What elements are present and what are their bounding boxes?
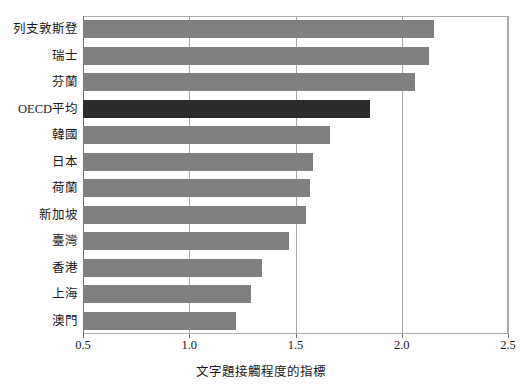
bar-row xyxy=(83,202,508,229)
x-axis-tick-label: 1.5 xyxy=(288,338,304,353)
bar xyxy=(83,100,370,118)
bar-row xyxy=(83,255,508,282)
category-label: 韓國 xyxy=(0,122,78,149)
category-label: 芬蘭 xyxy=(0,69,78,96)
category-label: 上海 xyxy=(0,281,78,308)
bar-row xyxy=(83,281,508,308)
bar-chart: 列支敦斯登 瑞士 芬蘭 OECD平均 韓國 日本 荷蘭 新加坡 臺灣 香港 上海… xyxy=(0,0,521,390)
bar xyxy=(83,259,262,277)
gridline xyxy=(508,16,509,334)
bar xyxy=(83,285,251,303)
bar-row xyxy=(83,69,508,96)
bar xyxy=(83,153,313,171)
bar xyxy=(83,73,415,91)
bar-series xyxy=(83,16,508,334)
category-label: 荷蘭 xyxy=(0,175,78,202)
bar-row xyxy=(83,228,508,255)
bar xyxy=(83,126,330,144)
category-label: 列支敦斯登 xyxy=(0,16,78,43)
category-label: 澳門 xyxy=(0,308,78,335)
bar xyxy=(83,232,289,250)
bar-row xyxy=(83,122,508,149)
bar xyxy=(83,312,236,330)
bar xyxy=(83,179,310,197)
category-label: 日本 xyxy=(0,149,78,176)
category-axis-labels: 列支敦斯登 瑞士 芬蘭 OECD平均 韓國 日本 荷蘭 新加坡 臺灣 香港 上海… xyxy=(0,16,78,334)
x-axis-tick-label: 1.0 xyxy=(181,338,197,353)
x-axis-tick-label: 2.0 xyxy=(394,338,410,353)
bar xyxy=(83,206,306,224)
bar-row xyxy=(83,149,508,176)
x-axis-title: 文字題接觸程度的指標 xyxy=(0,361,521,380)
x-axis-tick-label: 0.5 xyxy=(75,338,91,353)
bar xyxy=(83,47,429,65)
bar-row xyxy=(83,43,508,70)
bar-row xyxy=(83,308,508,335)
category-label: 瑞士 xyxy=(0,43,78,70)
bar-row xyxy=(83,96,508,123)
category-label: 新加坡 xyxy=(0,202,78,229)
category-label: OECD平均 xyxy=(0,96,78,123)
bar-row xyxy=(83,175,508,202)
bar-row xyxy=(83,16,508,43)
category-label: 香港 xyxy=(0,255,78,282)
x-axis-tick-label: 2.5 xyxy=(500,338,516,353)
bar xyxy=(83,20,434,38)
category-label: 臺灣 xyxy=(0,228,78,255)
